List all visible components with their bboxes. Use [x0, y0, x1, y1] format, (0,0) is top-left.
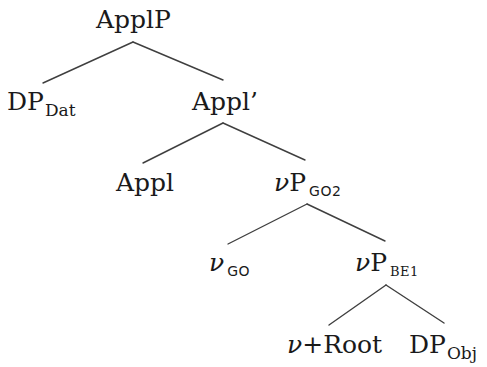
node-subscript: Dat: [45, 100, 76, 120]
node-v-symbol: ν: [274, 168, 289, 197]
node-label: +Root: [302, 330, 382, 359]
node-dp-dat: DPDat: [7, 89, 75, 114]
edge-vp-go2-vp-be1: [307, 204, 385, 241]
node-v-symbol: ν: [209, 248, 224, 277]
edge-applP-appl-bar: [133, 42, 223, 80]
edge-appl-bar-appl: [143, 123, 223, 163]
node-label: Appl: [116, 168, 174, 197]
node-dp-obj: DPObj: [409, 332, 477, 357]
edge-vp-be1-v-root: [329, 285, 386, 325]
tree-edges: [0, 0, 487, 367]
node-appl: Appl: [116, 170, 174, 195]
node-vp-be1: νPBE1: [355, 250, 419, 275]
node-v-go: νGO: [209, 250, 250, 275]
node-v-root: ν+Root: [287, 332, 382, 357]
node-subscript: GO: [227, 263, 250, 279]
node-label: Appl’: [192, 87, 258, 116]
node-label: P: [289, 168, 306, 197]
node-subscript: BE1: [390, 264, 419, 279]
edge-applP-dp-dat: [43, 42, 133, 83]
node-v-symbol: ν: [355, 248, 370, 277]
node-label: ApplP: [96, 5, 171, 34]
edge-vp-be1-dp-obj: [386, 285, 444, 323]
node-applP: ApplP: [96, 7, 171, 32]
edge-appl-bar-vp-go2: [223, 123, 305, 160]
node-vp-go2: νPGO2: [274, 170, 341, 195]
node-label: DP: [7, 87, 44, 116]
node-v-symbol: ν: [287, 330, 302, 359]
edge-vp-go2-v-go: [228, 204, 307, 244]
node-appl-bar: Appl’: [192, 89, 258, 114]
node-subscript: GO2: [309, 183, 341, 199]
syntax-tree-diagram: ApplP DPDat Appl’ Appl νPGO2 νGO νPBE1 ν…: [0, 0, 487, 367]
node-label: P: [370, 248, 387, 277]
node-label: DP: [409, 330, 446, 359]
node-subscript: Obj: [447, 343, 477, 363]
